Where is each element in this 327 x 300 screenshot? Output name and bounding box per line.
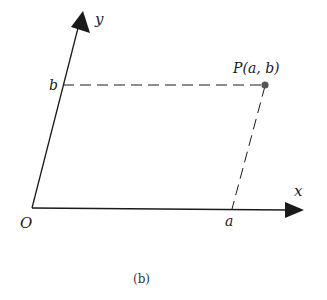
y-axis-label: y — [94, 10, 104, 28]
figure-caption: (b) — [133, 272, 150, 286]
point-p — [261, 81, 268, 88]
x-axis-label: x — [294, 182, 303, 200]
y-axis-arrowhead-icon — [71, 11, 90, 33]
point-p-label: P(a, b) — [232, 60, 280, 76]
x-axis-arrowhead-icon — [285, 202, 304, 218]
b-coordinate-label: b — [49, 77, 58, 93]
a-coordinate-label: a — [225, 213, 233, 229]
oblique-coordinate-diagram: y x O b a P(a, b) (b) — [0, 0, 327, 300]
y-axis — [32, 28, 78, 208]
dashed-line-to-a — [232, 86, 265, 209]
x-axis — [32, 208, 288, 210]
origin-label: O — [20, 214, 32, 232]
